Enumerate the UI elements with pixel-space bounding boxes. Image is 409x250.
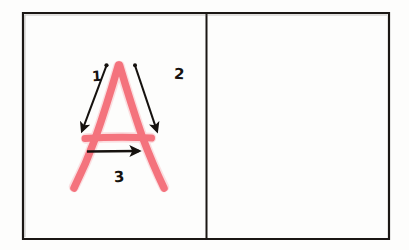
stroke-arrow-2-start-dot (133, 63, 137, 67)
stroke-number-2: 2 (174, 67, 185, 83)
stroke-number-3: 3 (113, 170, 124, 186)
practice-panel[interactable] (207, 12, 390, 240)
stroke-number-1: 1 (92, 69, 103, 84)
stroke-arrow-1-start-dot (104, 63, 108, 67)
letter-a-diagram (22, 12, 206, 240)
example-panel: 1 2 3 (22, 12, 206, 240)
worksheet: 1 2 3 (0, 0, 409, 250)
stroke-arrow-3 (87, 151, 139, 152)
